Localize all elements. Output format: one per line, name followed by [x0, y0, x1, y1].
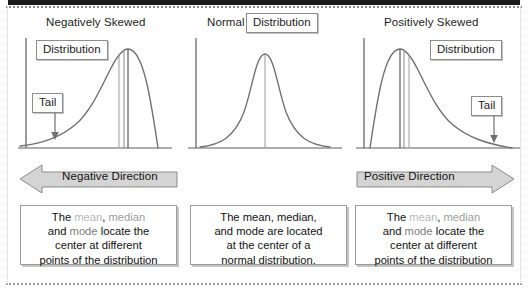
desc-pos-and: and	[383, 225, 405, 237]
desc-pos-mean: mean	[409, 211, 437, 223]
description-line-2: and mode locate the	[359, 224, 508, 238]
negative-direction-label: Negative Direction	[62, 170, 158, 182]
description-line-1: The mean, median,	[194, 210, 343, 224]
description-line-3: center at different	[24, 238, 173, 252]
description-line-2: and mode locate the	[24, 224, 173, 238]
density-curve-negatively-skewed	[20, 49, 158, 148]
desc-neg-mean: mean	[74, 211, 102, 223]
dotted-border-top	[6, 6, 522, 8]
desc-pos-mode: mode	[405, 225, 433, 237]
desc-neg-the: The	[52, 211, 74, 223]
distribution-label-normal: Distribution	[246, 13, 318, 33]
desc-neg-mode: mode	[70, 225, 98, 237]
desc-neg-locate: locate the	[98, 225, 150, 237]
desc-neg-and: and	[48, 225, 70, 237]
desc-pos-the: The	[387, 211, 409, 223]
description-normal: The mean, median, and mode are located a…	[190, 205, 347, 265]
figure-root: Negatively Skewed Normal Positively Skew…	[0, 0, 528, 296]
positive-direction-label: Positive Direction	[364, 170, 455, 182]
description-line-3: center at different	[359, 238, 508, 252]
chart-positively-skewed	[352, 32, 522, 157]
dotted-border-bottom	[6, 283, 522, 285]
dotted-border-left	[7, 6, 8, 284]
description-line-1: The mean, median	[24, 210, 173, 224]
panel-heading-negatively-skewed: Negatively Skewed	[46, 16, 146, 28]
panel-heading-normal: Normal	[207, 16, 245, 28]
description-line-3: at the center of a	[194, 238, 343, 252]
desc-neg-median: median	[108, 211, 145, 223]
desc-pos-median: median	[443, 211, 480, 223]
description-line-1: The mean, median	[359, 210, 508, 224]
description-negatively-skewed: The mean, median and mode locate the cen…	[20, 205, 177, 265]
top-dark-bar	[8, 0, 520, 5]
description-line-4: normal distribution.	[194, 253, 343, 267]
chart-normal	[186, 32, 344, 157]
description-line-4: points of the distribution	[24, 253, 173, 267]
desc-pos-locate: locate the	[433, 225, 485, 237]
description-line-4: points of the distribution	[359, 253, 508, 267]
description-line-2: and mode are located	[194, 224, 343, 238]
chart-negatively-skewed	[14, 32, 174, 157]
panel-heading-positively-skewed: Positively Skewed	[384, 16, 478, 28]
density-curve-positively-skewed	[370, 49, 512, 148]
description-positively-skewed: The mean, median and mode locate the cen…	[355, 205, 512, 265]
